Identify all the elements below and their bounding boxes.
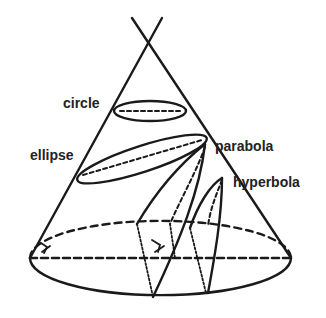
label-ellipse: ellipse xyxy=(30,148,74,162)
label-hyperbola: hyperbola xyxy=(233,175,300,189)
label-parabola: parabola xyxy=(215,139,273,153)
label-circle: circle xyxy=(63,96,100,110)
base-ellipse-back xyxy=(30,221,291,258)
circle-section xyxy=(114,101,186,121)
right-angle-markers xyxy=(41,240,164,253)
parabola-section xyxy=(137,144,205,297)
base-ellipse-front xyxy=(30,258,291,295)
